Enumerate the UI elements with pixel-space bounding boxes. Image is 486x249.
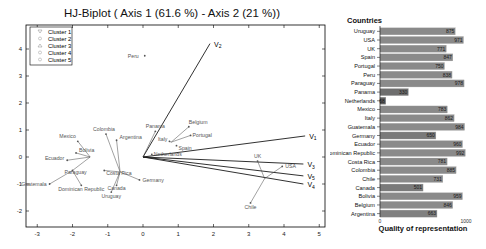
bar-x-axis-label: Quality of representation bbox=[379, 224, 468, 233]
point-marker bbox=[257, 160, 259, 162]
hj-biplot-chart: HJ-Biplot ( Axis 1 (61.6 %) - Axis 2 (21… bbox=[0, 0, 330, 249]
bar-category-label: Mexico bbox=[357, 106, 375, 112]
bar bbox=[380, 123, 465, 130]
bar bbox=[380, 149, 465, 156]
bar-value-label: 330 bbox=[399, 89, 408, 95]
bar bbox=[380, 193, 462, 200]
point-marker bbox=[188, 126, 190, 128]
point-marker bbox=[49, 183, 51, 185]
bar-value-label: 663 bbox=[428, 210, 437, 216]
bar bbox=[380, 54, 453, 61]
bar-value-label: 650 bbox=[427, 132, 436, 138]
point-marker bbox=[169, 140, 171, 142]
bar-value-label: 862 bbox=[445, 115, 454, 121]
point-marker bbox=[190, 135, 192, 137]
x-tick-label: 3 bbox=[247, 231, 251, 237]
bar-category-label: Dominican Republic bbox=[330, 150, 375, 156]
bar-category-label: Germany bbox=[352, 133, 375, 139]
y-tick-label: 3 bbox=[19, 73, 23, 79]
bar bbox=[380, 28, 455, 35]
point-label: UK bbox=[254, 153, 262, 159]
legend-label: Cluster 2 bbox=[48, 36, 71, 42]
bar-category-label: Bolivia bbox=[359, 193, 376, 199]
bar bbox=[380, 201, 453, 208]
point-marker bbox=[176, 145, 178, 147]
point-label: Chile bbox=[245, 204, 257, 210]
bar-category-label: Costa Rica bbox=[348, 159, 376, 165]
bar-category-label: Peru bbox=[363, 72, 375, 78]
bar-value-label: 501 bbox=[414, 184, 423, 190]
point-marker bbox=[103, 170, 105, 172]
point-marker bbox=[281, 166, 283, 168]
point-label: Colombia bbox=[93, 126, 115, 132]
point-label: Spain bbox=[178, 145, 191, 151]
point-label: Argentina bbox=[120, 134, 142, 140]
point-label: Canada bbox=[107, 185, 125, 191]
bar bbox=[380, 36, 464, 43]
bar-category-label: Ecuador bbox=[354, 141, 375, 147]
bar-category-label: Spain bbox=[361, 54, 375, 60]
point-marker bbox=[139, 179, 141, 181]
bar-category-label: Uruguay bbox=[354, 28, 375, 34]
legend-label: Cluster 4 bbox=[48, 50, 72, 56]
bar bbox=[380, 141, 463, 148]
point-marker bbox=[66, 159, 68, 161]
y-tick-label: 0 bbox=[19, 154, 23, 160]
bar-category-label: USA bbox=[363, 37, 375, 43]
bar-value-label: 875 bbox=[446, 28, 455, 34]
point-label: Ecuador bbox=[45, 155, 65, 161]
x-tick-label: -3 bbox=[35, 231, 41, 237]
bar-value-label: 959 bbox=[453, 193, 462, 199]
y-tick-label: -2 bbox=[17, 208, 23, 214]
point-label: Panama bbox=[146, 123, 165, 129]
bar-value-label: 971 bbox=[454, 37, 463, 43]
legend-label: Cluster 3 bbox=[48, 43, 71, 49]
bar-value-label: 846 bbox=[443, 202, 452, 208]
bar-value-label: 731 bbox=[434, 176, 443, 182]
point-label: Bolivia bbox=[79, 147, 94, 153]
bar-value-label: 984 bbox=[455, 124, 464, 130]
bar-value-label: 838 bbox=[443, 72, 452, 78]
point-label: Germany bbox=[142, 177, 164, 183]
biplot-title: HJ-Biplot ( Axis 1 (61.6 %) - Axis 2 (21… bbox=[64, 7, 280, 19]
point-label: Mexico bbox=[59, 133, 76, 139]
point-marker bbox=[154, 130, 156, 132]
x-tick-label: -1 bbox=[105, 231, 111, 237]
bar-category-label: Italy bbox=[365, 115, 375, 121]
point-marker bbox=[144, 55, 146, 57]
point-marker bbox=[75, 152, 77, 154]
point-marker bbox=[151, 153, 153, 155]
bar-value-label: 960 bbox=[453, 141, 462, 147]
x-tick-label: -2 bbox=[70, 231, 76, 237]
point-label: Paraguay bbox=[65, 169, 88, 175]
bar-value-label: 783 bbox=[438, 106, 447, 112]
bar bbox=[380, 167, 456, 174]
point-label: Italy bbox=[158, 136, 168, 142]
bar-rows: Uruguay875USA971UK771Spain847Portugal750… bbox=[330, 28, 465, 217]
bar-category-label: Paraguay bbox=[351, 80, 375, 86]
bar-value-label: 978 bbox=[455, 80, 464, 86]
cluster-legend: Cluster 1Cluster 2Cluster 3Cluster 4Clus… bbox=[30, 27, 72, 65]
bar-category-label: Netherlands bbox=[345, 98, 375, 104]
bar-value-label: 847 bbox=[443, 54, 452, 60]
bar-value-label: 885 bbox=[447, 167, 456, 173]
legend-label: Cluster 1 bbox=[48, 29, 71, 35]
bar-value-label: 771 bbox=[437, 46, 446, 52]
x-tick-label: 4 bbox=[282, 231, 286, 237]
point-label: Belgium bbox=[189, 119, 208, 125]
bar-category-label: Colombia bbox=[351, 167, 376, 173]
bar-category-label: Panama bbox=[354, 89, 376, 95]
point-label: Portugal bbox=[193, 132, 212, 138]
bar-category-label: Guatemala bbox=[348, 124, 376, 130]
y-tick-label: 4 bbox=[19, 46, 23, 52]
bar-value-label: 781 bbox=[438, 158, 447, 164]
bar-value-label: 750 bbox=[435, 63, 444, 69]
bar bbox=[380, 80, 464, 87]
point-marker bbox=[77, 140, 79, 142]
point-marker bbox=[105, 133, 107, 135]
bar-category-label: Argentina bbox=[351, 211, 376, 217]
point-label: Guatemala bbox=[21, 181, 46, 187]
bar bbox=[380, 115, 454, 122]
point-label: USA bbox=[285, 163, 296, 169]
x-tick-label: 2 bbox=[212, 231, 216, 237]
